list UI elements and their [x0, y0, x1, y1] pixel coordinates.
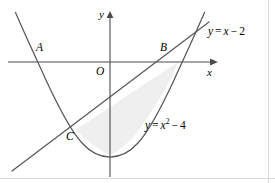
parabola-eq-exponent: 2: [166, 117, 170, 126]
parabola-eq-lhs: y: [145, 119, 150, 131]
parabola-eq-operator: −: [172, 119, 179, 131]
figure-container: A B C O x y y=x−2 y=x2−4: [0, 0, 275, 183]
line-eq-lhs: y: [208, 25, 213, 37]
parabola-eq-constant: 4: [180, 119, 186, 131]
x-axis-label: x: [207, 67, 212, 78]
origin-label: O: [96, 66, 104, 78]
y-axis-label: y: [99, 9, 104, 20]
parabola-eq-equals: =: [152, 119, 159, 131]
point-label-c: C: [66, 131, 74, 143]
line-equation-label: y=x−2: [208, 26, 245, 38]
shaded-region: [74, 62, 178, 155]
line-eq-constant: 2: [239, 25, 245, 37]
x-axis-arrowhead: [210, 59, 218, 66]
shaded-region-group: [74, 62, 178, 155]
line-eq-operator: −: [231, 25, 238, 37]
line-eq-equals: =: [215, 25, 222, 37]
point-label-b: B: [160, 42, 167, 54]
y-axis-arrowhead: [107, 11, 114, 18]
parabola-equation-label: y=x2−4: [145, 118, 186, 131]
point-label-a: A: [36, 42, 43, 54]
line-eq-variable: x: [224, 25, 229, 37]
